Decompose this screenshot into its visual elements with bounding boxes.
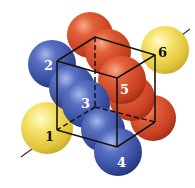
label-1: 1 [45, 129, 54, 144]
label-5: 5 [120, 82, 129, 97]
label-2: 2 [44, 58, 53, 73]
label-4: 4 [117, 155, 126, 170]
label-6: 6 [158, 45, 167, 60]
cube-sphere-diagram: 1 2 3 4 5 6 [0, 0, 195, 188]
label-3: 3 [81, 96, 90, 111]
